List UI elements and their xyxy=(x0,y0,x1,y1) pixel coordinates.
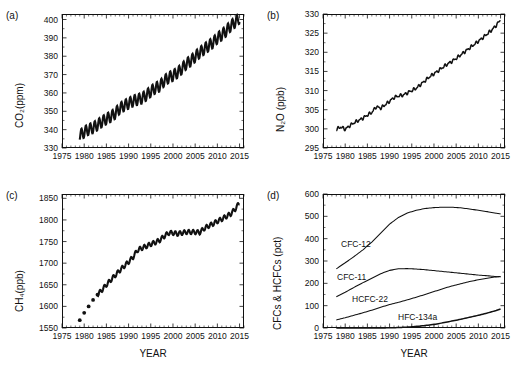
series-label-hfc-134a: HFC-134a xyxy=(398,312,437,322)
x-tick-label: 2000 xyxy=(164,331,183,341)
panel-a-plot-area xyxy=(62,14,244,148)
x-tick-label: 1990 xyxy=(119,151,138,161)
y-tick-label: 350 xyxy=(20,106,58,116)
x-tick-label: 1990 xyxy=(380,331,399,341)
figure-caption xyxy=(0,362,522,373)
x-tick-label: 2015 xyxy=(491,331,510,341)
x-tick-label: 2000 xyxy=(425,151,444,161)
x-tick-label: 1975 xyxy=(53,151,72,161)
y-tick-label: 300 xyxy=(281,124,319,134)
y-tick-label: 1850 xyxy=(20,193,58,203)
x-tick-label: 1985 xyxy=(358,331,377,341)
y-tick-label: 360 xyxy=(20,88,58,98)
x-tick-label: 2010 xyxy=(208,151,227,161)
panel-b-tag: (b) xyxy=(267,10,279,21)
y-tick-label: 1700 xyxy=(20,258,58,268)
y-tick-label: 390 xyxy=(20,33,58,43)
panel-c-tag: (c) xyxy=(6,190,18,201)
series-label-cfc-12: CFC-12 xyxy=(341,239,371,249)
x-tick-label: 2015 xyxy=(491,151,510,161)
y-tick-label: 1800 xyxy=(20,215,58,225)
panel-b-plot-area xyxy=(323,14,505,148)
figure-greenhouse-gas-trends: (a) CO₂(ppm) 330340350360370380390400 19… xyxy=(0,0,522,373)
x-tick-label: 1980 xyxy=(336,151,355,161)
panel-a-tag: (a) xyxy=(6,10,18,21)
x-tick-label: 1985 xyxy=(97,151,116,161)
y-tick-label: 300 xyxy=(281,256,319,266)
x-tick-label: 1975 xyxy=(314,331,333,341)
y-tick-label: 325 xyxy=(281,28,319,38)
y-tick-label: 305 xyxy=(281,105,319,115)
panel-c-xlabel: YEAR xyxy=(62,348,244,359)
y-tick-label: 600 xyxy=(281,189,319,199)
panel-c-plot-area xyxy=(62,194,244,328)
x-tick-label: 1980 xyxy=(336,331,355,341)
y-tick-label: 340 xyxy=(20,125,58,135)
x-tick-label: 1975 xyxy=(53,331,72,341)
x-tick-label: 2010 xyxy=(469,331,488,341)
y-tick-label: 330 xyxy=(281,9,319,19)
y-tick-label: 380 xyxy=(20,51,58,61)
x-tick-label: 2000 xyxy=(164,151,183,161)
x-tick-label: 1980 xyxy=(75,151,94,161)
series-label-hcfc-22: HCFC-22 xyxy=(352,294,388,304)
x-tick-label: 1985 xyxy=(358,151,377,161)
panel-d-xlabel: YEAR xyxy=(323,348,505,359)
x-tick-label: 1980 xyxy=(75,331,94,341)
y-tick-label: 500 xyxy=(281,211,319,221)
panel-d-tag: (d) xyxy=(267,190,279,201)
panel-d-plot-area xyxy=(323,194,505,328)
y-tick-label: 1750 xyxy=(20,237,58,247)
y-tick-label: 315 xyxy=(281,66,319,76)
x-tick-label: 2005 xyxy=(447,331,466,341)
y-tick-label: 400 xyxy=(20,15,58,25)
x-tick-label: 2005 xyxy=(186,151,205,161)
y-tick-label: 200 xyxy=(281,278,319,288)
x-tick-label: 2015 xyxy=(230,151,249,161)
x-tick-label: 2010 xyxy=(208,331,227,341)
y-tick-label: 370 xyxy=(20,70,58,80)
y-tick-label: 320 xyxy=(281,47,319,57)
x-tick-label: 2005 xyxy=(447,151,466,161)
x-tick-label: 1985 xyxy=(97,331,116,341)
x-tick-label: 2015 xyxy=(230,331,249,341)
y-tick-label: 310 xyxy=(281,86,319,96)
y-tick-label: 400 xyxy=(281,234,319,244)
x-tick-label: 1995 xyxy=(402,331,421,341)
y-tick-label: 1600 xyxy=(20,301,58,311)
x-tick-label: 1995 xyxy=(402,151,421,161)
x-tick-label: 1995 xyxy=(141,331,160,341)
series-label-cfc-11: CFC-11 xyxy=(337,272,366,282)
y-tick-label: 1650 xyxy=(20,280,58,290)
y-tick-label: 100 xyxy=(281,301,319,311)
x-tick-label: 1990 xyxy=(380,151,399,161)
x-tick-label: 2000 xyxy=(425,331,444,341)
x-tick-label: 1990 xyxy=(119,331,138,341)
x-tick-label: 2005 xyxy=(186,331,205,341)
x-tick-label: 1995 xyxy=(141,151,160,161)
x-tick-label: 1975 xyxy=(314,151,333,161)
x-tick-label: 2010 xyxy=(469,151,488,161)
